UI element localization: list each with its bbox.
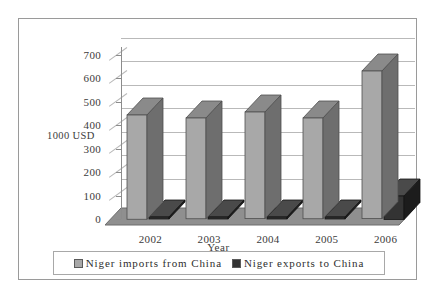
y-axis-tick bbox=[116, 149, 121, 150]
gridline-depth-connector bbox=[109, 117, 127, 131]
gridline-depth-connector bbox=[109, 93, 127, 107]
y-axis-tick bbox=[116, 55, 121, 56]
gridline-depth-connector bbox=[109, 187, 127, 201]
gridline-depth-connector bbox=[109, 47, 127, 61]
gridline-depth-connector bbox=[109, 140, 127, 154]
bar-imports-2005 bbox=[303, 101, 341, 221]
legend-entry-exports: Niger exports to China bbox=[232, 257, 364, 269]
gridline-depth-connector bbox=[109, 70, 127, 84]
legend-swatch-icon-imports bbox=[74, 259, 83, 268]
bar-imports-2002 bbox=[127, 98, 165, 221]
y-axis-tick bbox=[116, 196, 121, 197]
legend-swatch-icon-exports bbox=[232, 259, 241, 268]
y-axis bbox=[121, 47, 122, 219]
gridline bbox=[121, 38, 415, 39]
y-axis-tick-label: 0 bbox=[95, 213, 105, 225]
y-axis-tick bbox=[116, 102, 121, 103]
bar-imports-2006 bbox=[362, 54, 400, 221]
plot-area: 0100200300400500600700 20022003200420052… bbox=[105, 47, 415, 225]
chart-frame: 1000 USD 0100200300400500600700 20022003… bbox=[18, 18, 417, 280]
y-axis-tick-label: 500 bbox=[84, 96, 105, 108]
y-axis-tick-label: 400 bbox=[84, 119, 105, 131]
chart-legend: Niger imports from China Niger exports t… bbox=[53, 251, 385, 275]
bar-imports-2004 bbox=[245, 95, 283, 221]
legend-label-exports: Niger exports to China bbox=[244, 257, 364, 269]
y-axis-tick-label: 600 bbox=[84, 72, 105, 84]
y-axis-tick-label: 300 bbox=[84, 143, 105, 155]
y-axis-title: 1000 USD bbox=[47, 130, 95, 141]
y-axis-tick bbox=[116, 172, 121, 173]
bar-imports-2003 bbox=[186, 101, 224, 221]
y-axis-tick bbox=[116, 219, 121, 220]
legend-entry-imports: Niger imports from China bbox=[74, 257, 222, 269]
chart-screenshot: 1000 USD 0100200300400500600700 20022003… bbox=[0, 0, 437, 294]
y-axis-tick bbox=[116, 78, 121, 79]
y-axis-tick-label: 100 bbox=[84, 190, 105, 202]
legend-label-imports: Niger imports from China bbox=[86, 257, 222, 269]
gridline-depth-connector bbox=[109, 164, 127, 178]
y-axis-tick-label: 200 bbox=[84, 166, 105, 178]
y-axis-tick-label: 700 bbox=[84, 49, 105, 61]
y-axis-tick bbox=[116, 125, 121, 126]
